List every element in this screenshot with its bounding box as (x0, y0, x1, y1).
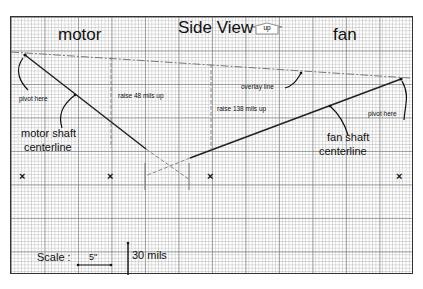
x-mark: × (107, 171, 113, 182)
x-mark: × (396, 171, 402, 182)
fan-heading: fan (333, 25, 357, 45)
raise-motor-label: raise 48 mils up (118, 92, 164, 99)
scale-label: Scale : (37, 251, 71, 263)
x-mark: × (207, 171, 213, 182)
motor-shaft-extension (146, 149, 190, 180)
scale-horizontal-value: 5" (89, 252, 97, 262)
fan-pivot-leader (402, 81, 406, 120)
overlay-leader (285, 73, 301, 88)
page-title: Side View (178, 18, 253, 38)
motor-heading: motor (58, 25, 101, 45)
fan-shaft-label-2: centerline (319, 145, 367, 157)
motor-shaft-leader (61, 95, 75, 128)
x-mark: × (19, 171, 25, 182)
motor-pivot-label: pivot here (19, 95, 48, 102)
up-arrow-marker: up (249, 22, 285, 35)
overlay-line-label: overlay line (241, 83, 274, 90)
fan-shaft-extension (145, 158, 190, 176)
motor-shaft-label-2: centerline (24, 141, 72, 153)
raise-fan-label: raise 138 mils up (217, 105, 266, 112)
fan-pivot-label: pivot here (368, 110, 397, 117)
motor-pivot-leader (19, 58, 28, 90)
motor-shaft-label-1: motor shaft (21, 127, 76, 139)
fan-shaft-line (190, 79, 401, 158)
scale-vertical-value: 30 mils (132, 249, 167, 261)
fan-shaft-label-1: fan shaft (327, 131, 369, 143)
